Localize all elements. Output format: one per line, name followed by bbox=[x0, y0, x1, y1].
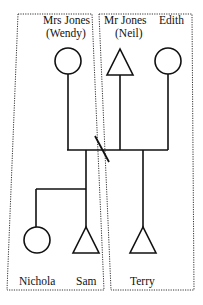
label-terry: Terry bbox=[130, 275, 155, 288]
sam-triangle-icon bbox=[73, 227, 99, 253]
genogram-diagram: Mrs Jones (Wendy) Mr Jones (Neil) Edith … bbox=[0, 0, 203, 305]
terry-triangle-icon bbox=[130, 227, 156, 253]
label-wendy-name: Mrs Jones bbox=[43, 14, 90, 26]
label-edith: Edith bbox=[159, 14, 184, 26]
neil-triangle-icon bbox=[107, 49, 133, 75]
wendy-circle-icon bbox=[55, 48, 81, 74]
separation-slash-icon bbox=[95, 136, 109, 162]
edith-circle-icon bbox=[155, 48, 181, 74]
label-neil-given: (Neil) bbox=[115, 27, 143, 40]
label-wendy-given: (Wendy) bbox=[46, 27, 86, 40]
label-neil-name: Mr Jones bbox=[104, 14, 147, 26]
label-sam: Sam bbox=[76, 275, 97, 287]
label-nichola: Nichola bbox=[19, 275, 55, 287]
nichola-circle-icon bbox=[24, 227, 50, 253]
